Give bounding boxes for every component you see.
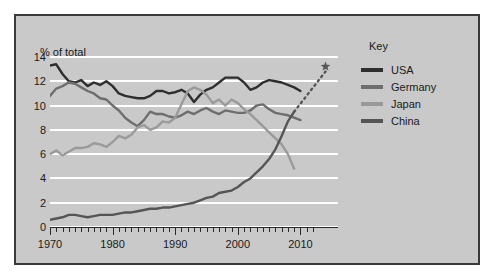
x-tick-minor <box>88 228 89 232</box>
x-tick-minor <box>106 228 107 232</box>
x-tick-label: 1990 <box>163 238 187 250</box>
x-tick-minor <box>288 228 289 232</box>
x-tick-minor <box>213 228 214 232</box>
x-tick-minor <box>156 228 157 232</box>
x-tick-label: 2000 <box>226 238 250 250</box>
x-tick-minor <box>119 228 120 232</box>
x-axis-tick-labels: 19701980199020002010 <box>50 238 338 254</box>
x-tick-minor <box>313 228 314 232</box>
x-tick-minor <box>194 228 195 232</box>
legend-swatch-usa <box>361 68 383 72</box>
legend-label: Germany <box>391 81 436 93</box>
x-tick-label: 1980 <box>100 238 124 250</box>
x-axis-ticks <box>50 228 338 236</box>
x-tick-minor <box>307 228 308 232</box>
x-tick-minor <box>263 228 264 232</box>
x-tick-minor <box>75 228 76 232</box>
y-tick-label: 10 <box>28 100 46 112</box>
y-tick-label: 2 <box>28 197 46 209</box>
x-tick-minor <box>150 228 151 232</box>
legend: Key USAGermanyJapanChina <box>361 40 471 129</box>
series-line-usa <box>50 64 300 102</box>
y-tick-label: 0 <box>28 221 46 233</box>
x-tick-minor <box>244 228 245 232</box>
x-tick-minor <box>63 228 64 232</box>
x-tick-minor <box>56 228 57 232</box>
china-projection <box>294 72 325 112</box>
legend-item-japan[interactable]: Japan <box>361 95 471 112</box>
x-tick-minor <box>169 228 170 232</box>
x-tick-minor <box>200 228 201 232</box>
legend-label: China <box>391 115 420 127</box>
series-line-germany <box>50 83 300 127</box>
x-tick-minor <box>275 228 276 232</box>
y-tick-label: 14 <box>28 51 46 63</box>
chart-panel: % of total 02468101214 19701980199020002… <box>14 14 480 265</box>
x-tick-minor <box>81 228 82 232</box>
y-axis-tick-labels: 02468101214 <box>26 57 46 227</box>
x-tick-major <box>50 228 51 235</box>
x-tick-minor <box>94 228 95 232</box>
x-tick-minor <box>163 228 164 232</box>
x-tick-minor <box>250 228 251 232</box>
projection-star-marker <box>321 62 331 71</box>
chart-screenshot: % of total 02468101214 19701980199020002… <box>0 0 496 280</box>
series-line-china <box>50 112 294 220</box>
legend-label: Japan <box>391 98 421 110</box>
x-tick-minor <box>125 228 126 232</box>
legend-item-germany[interactable]: Germany <box>361 78 471 95</box>
legend-swatch-china <box>361 119 383 123</box>
x-tick-major <box>175 228 176 235</box>
x-tick-minor <box>138 228 139 232</box>
x-tick-minor <box>131 228 132 232</box>
y-tick-label: 12 <box>28 75 46 87</box>
x-tick-minor <box>257 228 258 232</box>
x-tick-minor <box>219 228 220 232</box>
series-line-japan <box>50 87 294 168</box>
legend-swatch-japan <box>361 102 383 106</box>
x-tick-minor <box>207 228 208 232</box>
x-tick-major <box>300 228 301 235</box>
legend-swatch-germany <box>361 85 383 89</box>
legend-rows: USAGermanyJapanChina <box>361 61 471 129</box>
x-tick-minor <box>294 228 295 232</box>
y-tick-label: 8 <box>28 124 46 136</box>
legend-item-usa[interactable]: USA <box>361 61 471 78</box>
x-tick-minor <box>188 228 189 232</box>
x-tick-minor <box>225 228 226 232</box>
legend-item-china[interactable]: China <box>361 112 471 129</box>
x-tick-major <box>238 228 239 235</box>
x-tick-minor <box>144 228 145 232</box>
y-tick-label: 6 <box>28 148 46 160</box>
series-lines <box>50 57 338 227</box>
x-tick-minor <box>100 228 101 232</box>
y-tick-label: 4 <box>28 172 46 184</box>
x-tick-major <box>113 228 114 235</box>
x-tick-minor <box>232 228 233 232</box>
x-tick-label: 1970 <box>38 238 62 250</box>
plot-area <box>50 57 338 244</box>
x-tick-minor <box>269 228 270 232</box>
x-tick-minor <box>69 228 70 232</box>
legend-label: USA <box>391 64 414 76</box>
plot-canvas <box>50 57 338 227</box>
legend-title: Key <box>369 40 471 52</box>
x-tick-minor <box>282 228 283 232</box>
x-tick-label: 2010 <box>288 238 312 250</box>
x-tick-minor <box>181 228 182 232</box>
